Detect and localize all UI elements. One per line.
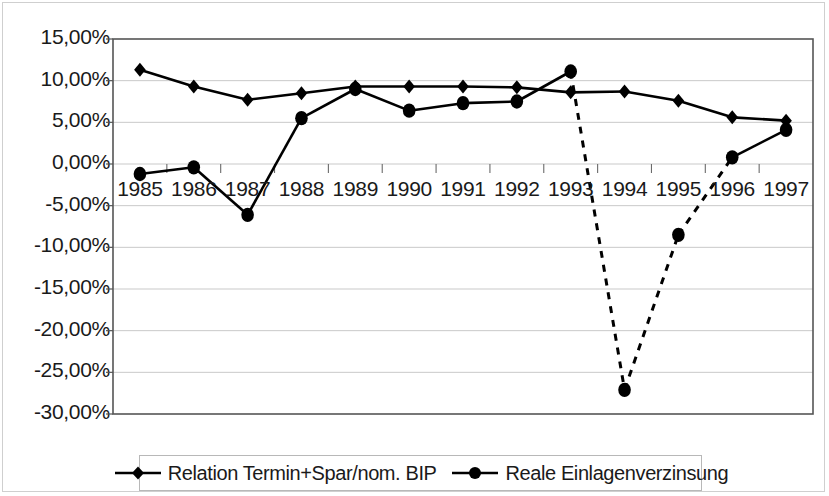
series-lines [140,70,786,390]
data-point-circle [564,64,577,78]
x-axis-tick-label: 1994 [595,177,655,201]
data-point-diamond [619,85,631,99]
series-1-segment [732,130,786,158]
data-point-diamond [296,86,308,100]
series-0-segment [517,87,571,92]
data-point-circle [187,160,200,174]
data-point-circle [780,123,793,137]
gridlines [106,39,813,414]
x-axis-tick-label: 1996 [702,177,762,201]
data-point-circle [511,94,524,108]
x-axis-tick-label: 1987 [218,177,278,201]
series-1-segment [625,235,679,390]
data-point-circle [403,103,416,117]
series-0-segment [678,101,732,118]
series-markers [134,63,793,397]
x-axis-tick-label: 1988 [271,177,331,201]
data-point-diamond [457,80,469,94]
circle-marker-icon [450,465,500,481]
data-point-circle [726,150,739,164]
legend-label-relation: Relation Termin+Spar/nom. BIP [168,462,437,485]
series-0-segment [463,87,517,88]
x-axis-tick-label: 1989 [325,177,385,201]
series-0-segment [248,93,302,100]
x-axis-tick-label: 1985 [110,177,170,201]
data-point-diamond [673,94,685,108]
data-point-circle [295,111,308,125]
data-point-diamond [403,80,415,94]
series-0-segment [194,87,248,100]
data-point-circle [672,228,685,242]
x-axis-ticks [167,164,759,173]
series-1-segment [463,102,517,104]
diamond-marker-icon [113,465,163,481]
x-axis-tick-label: 1992 [487,177,547,201]
x-axis-tick-label: 1995 [648,177,708,201]
legend-item-relation: Relation Termin+Spar/nom. BIP [113,462,437,485]
chart-legend: Relation Termin+Spar/nom. BIP Reale Einl… [139,455,702,491]
series-0-segment [625,92,679,101]
data-point-circle [618,383,631,397]
x-axis-tick-label: 1997 [756,177,816,201]
series-0-segment [571,92,625,93]
series-1-segment [355,89,409,111]
series-1-segment [409,103,463,111]
legend-item-verzinsung: Reale Einlagenverzinsung [450,462,728,485]
plot-frame [113,39,813,414]
x-axis-tick-label: 1990 [379,177,439,201]
data-point-circle [457,96,470,110]
series-0-segment [140,70,194,87]
plot-area [0,0,829,496]
data-point-diamond [188,80,200,94]
series-1-segment [517,72,571,102]
chart-figure: 15,00%10,00%5,00%0,00%-5,00%-10,00%-15,0… [0,0,829,496]
data-point-circle [349,82,362,96]
x-axis-tick-label: 1986 [164,177,224,201]
data-point-diamond [242,93,254,107]
x-axis-tick-label: 1991 [433,177,493,201]
series-0-segment [732,117,786,120]
x-axis-tick-label: 1993 [541,177,601,201]
series-1-segment [571,72,625,390]
data-point-diamond [511,80,523,94]
legend-label-verzinsung: Reale Einlagenverzinsung [505,462,728,485]
data-point-diamond [134,63,146,77]
data-point-circle [241,208,254,222]
